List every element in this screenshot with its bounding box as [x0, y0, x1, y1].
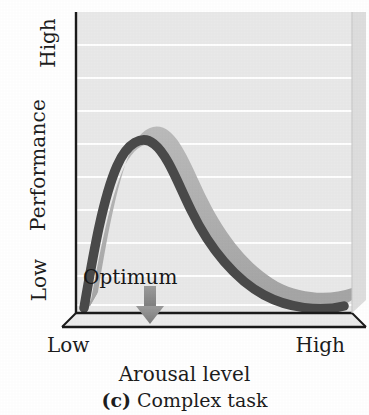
- figure-caption-index: (c): [101, 389, 131, 411]
- plot-floor: [62, 313, 366, 327]
- y-axis-tick-low: Low: [29, 235, 49, 325]
- x-axis-tick-high: High: [295, 335, 345, 355]
- figure-caption-text: Complex task: [137, 389, 267, 411]
- figure-caption: (c) Complex task: [0, 391, 369, 410]
- y-axis-tick-high: High: [38, 0, 58, 93]
- figure-root: Performance High Low Low High Arousal le…: [0, 0, 369, 415]
- x-axis-tick-low: Low: [47, 335, 89, 355]
- x-axis-title: Arousal level: [0, 364, 369, 384]
- optimum-annotation-label: Optimum: [83, 267, 177, 287]
- y-axis-title: Performance: [28, 95, 48, 235]
- plot-depth-wall-right: [352, 12, 366, 313]
